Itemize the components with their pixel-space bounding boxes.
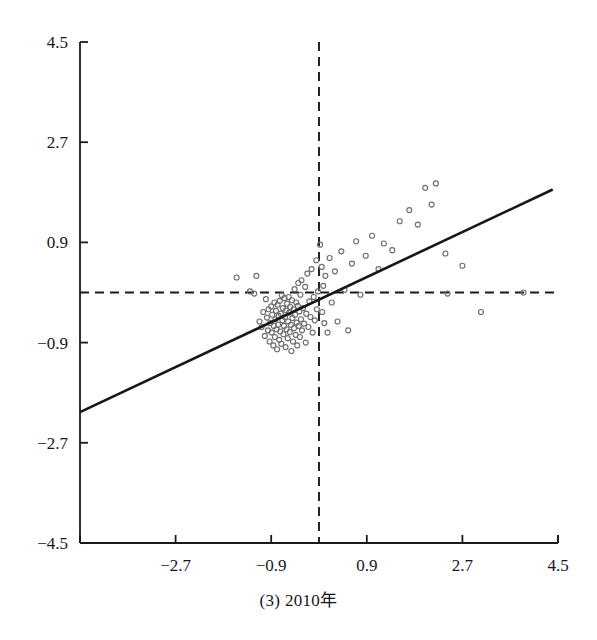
plot-canvas: [0, 0, 597, 640]
y-tick-label: 0.9: [14, 234, 68, 251]
scatter-plot-figure: −4.5−2.7−0.90.92.74.5 −2.7−0.90.92.74.5 …: [0, 0, 597, 640]
reference-lines: [80, 42, 558, 543]
y-tick-label: −2.7: [14, 434, 68, 451]
x-tick-label: −0.9: [256, 557, 287, 574]
x-tick-label: 2.7: [452, 557, 473, 574]
figure-caption: (3) 2010年: [0, 586, 597, 611]
y-tick-label: −0.9: [14, 334, 68, 351]
y-tick-label: 4.5: [14, 34, 68, 51]
y-tick-label: −4.5: [14, 535, 68, 552]
y-tick-label: 2.7: [14, 134, 68, 151]
x-tick-label: −2.7: [160, 557, 191, 574]
regression-line: [80, 190, 553, 413]
x-tick-label: 4.5: [547, 557, 568, 574]
x-tick-label: 0.9: [356, 557, 377, 574]
scatter-points: [234, 181, 526, 354]
